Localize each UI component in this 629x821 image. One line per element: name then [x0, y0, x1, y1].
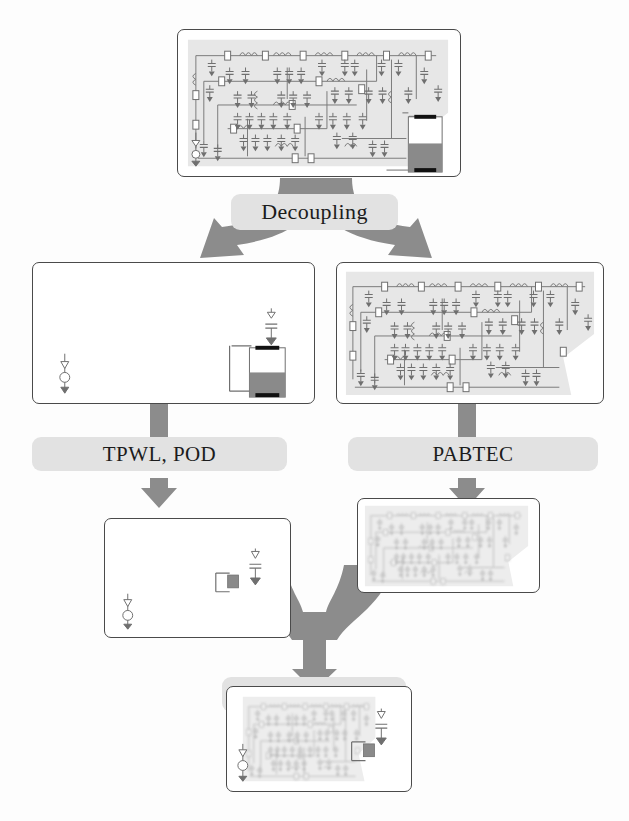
capacitor-symbol: [375, 709, 387, 745]
capacitor-symbol: [249, 549, 261, 585]
arrow-tpwl-stem: [150, 404, 168, 440]
source-symbol: [60, 354, 70, 393]
arrow-pabtec-stem: [458, 404, 476, 440]
capacitor-symbol: [265, 308, 277, 344]
node-full-coupled-system[interactable]: [177, 29, 461, 177]
circuit-reduced-linear: [358, 499, 539, 592]
circuit-nonlinear-subsystem: [33, 263, 314, 403]
node-reduced-linear-subsystem[interactable]: [357, 498, 540, 593]
step-label-tpwl-pod[interactable]: TPWL, POD: [32, 437, 287, 471]
circuit-full-coupled: [178, 30, 460, 176]
nonlinear-element: [230, 346, 286, 397]
nonlinear-element: [216, 573, 239, 592]
node-nonlinear-subsystem[interactable]: [32, 262, 315, 404]
source-symbol: [123, 594, 133, 629]
node-reduced-coupled-system[interactable]: [226, 686, 412, 792]
step-label-decoupling[interactable]: Decoupling: [231, 194, 398, 230]
step-label-pabtec-text: PABTEC: [433, 442, 514, 467]
step-label-tpwl-pod-text: TPWL, POD: [103, 442, 216, 467]
step-label-decoupling-text: Decoupling: [261, 199, 368, 225]
arrow-tpwl-head: [141, 478, 177, 508]
circuit-reduced-nonlinear: [105, 519, 290, 637]
circuit-reduced-coupled: [227, 687, 411, 791]
diagram-canvas: Decoupling: [0, 0, 629, 821]
node-linear-subsystem[interactable]: [336, 262, 604, 404]
arrow-recoupling-tail: [303, 612, 326, 663]
node-reduced-nonlinear-subsystem[interactable]: [104, 518, 291, 638]
circuit-linear-subsystem: [337, 263, 603, 403]
step-label-pabtec[interactable]: PABTEC: [348, 437, 598, 471]
